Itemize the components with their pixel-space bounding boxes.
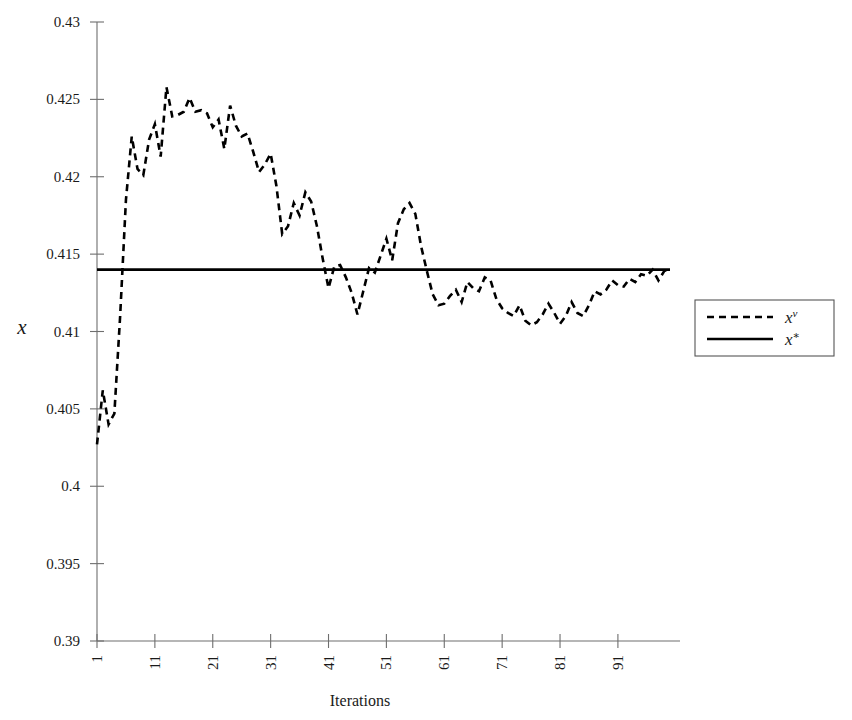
y-tick-label: 0.425: [46, 91, 80, 107]
axis-titles: xIterations: [16, 315, 390, 709]
x-tick-label: 61: [436, 655, 452, 670]
line-chart: 0.390.3950.40.4050.410.4150.420.4250.43 …: [0, 0, 852, 720]
legend: xνx∗: [695, 300, 834, 356]
legend-superscript-0: ν: [793, 307, 798, 319]
y-tick-label: 0.405: [46, 401, 80, 417]
x-tick-label: 21: [205, 655, 221, 670]
legend-superscript-1: ∗: [793, 329, 800, 341]
x-tick-label: 71: [494, 655, 510, 670]
chart-figure: 0.390.3950.40.4050.410.4150.420.4250.43 …: [0, 0, 852, 720]
y-tick-label: 0.42: [54, 169, 80, 185]
x-tick-label: 51: [378, 655, 394, 670]
y-tick-label: 0.39: [54, 633, 80, 649]
legend-box: [695, 300, 834, 356]
x-tick-label: 81: [552, 655, 568, 670]
y-tick-label: 0.43: [54, 14, 80, 30]
series-lines: [97, 87, 670, 444]
y-tick-label: 0.415: [46, 246, 80, 262]
x-tick-label: 31: [263, 655, 279, 670]
x-tick-label: 41: [321, 655, 337, 670]
x-axis-title: Iterations: [330, 692, 390, 709]
x-tick-label: 1: [89, 655, 105, 663]
y-axis: 0.390.3950.40.4050.410.4150.420.4250.43: [46, 14, 104, 649]
x-tick-label: 11: [147, 655, 163, 669]
y-tick-label: 0.4: [61, 478, 80, 494]
y-tick-label: 0.41: [54, 324, 80, 340]
y-tick-label: 0.395: [46, 556, 80, 572]
y-axis-title: x: [16, 315, 27, 339]
x-tick-label: 91: [610, 655, 626, 670]
x-axis: 1112131415161718191: [89, 634, 680, 670]
series-x^nu: [97, 87, 670, 444]
